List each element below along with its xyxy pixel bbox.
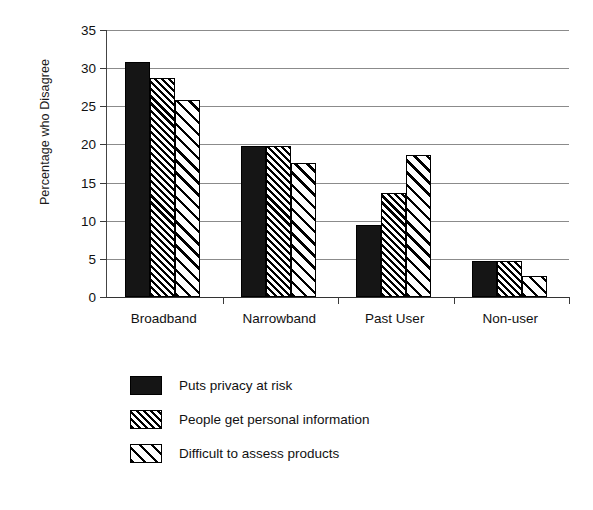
- legend-label: Puts privacy at risk: [179, 378, 292, 393]
- x-axis-tick: [454, 297, 455, 304]
- chart-legend: Puts privacy at riskPeople get personal …: [130, 371, 530, 473]
- legend-swatch: [130, 410, 162, 429]
- y-axis-tick: [100, 144, 107, 145]
- y-axis-tick: [100, 183, 107, 184]
- legend-swatch: [130, 444, 162, 463]
- legend-item: People get personal information: [130, 405, 530, 434]
- bar: [356, 225, 381, 297]
- bar: [497, 261, 522, 297]
- x-axis-tick: [338, 297, 339, 304]
- y-axis-title: Percentage who Disagree: [38, 17, 52, 247]
- bar-group: [241, 30, 316, 297]
- bar: [522, 276, 547, 297]
- x-axis-label-broadband: Broadband: [106, 311, 222, 326]
- plot-area: 35302520151050: [106, 30, 569, 298]
- bar-group: [472, 30, 547, 297]
- y-axis-tick: [100, 221, 107, 222]
- x-axis-label-non-user: Non-user: [453, 311, 569, 326]
- y-axis-tick-label: 35: [81, 23, 96, 38]
- legend-swatch: [130, 376, 162, 395]
- y-axis-tick: [100, 68, 107, 69]
- bar-group: [356, 30, 431, 297]
- bar-chart: Percentage who Disagree 35302520151050 B…: [0, 0, 593, 510]
- bar: [241, 146, 266, 297]
- y-axis-tick: [100, 259, 107, 260]
- bar: [266, 146, 291, 297]
- bar: [406, 155, 431, 297]
- y-axis-tick-label: 15: [81, 175, 96, 190]
- y-axis-tick-label: 0: [88, 290, 96, 305]
- y-axis-tick: [100, 30, 107, 31]
- y-axis-tick: [100, 297, 107, 298]
- bar: [150, 78, 175, 297]
- y-axis-tick-label: 30: [81, 61, 96, 76]
- bar: [381, 193, 406, 298]
- x-axis-label-narrowband: Narrowband: [222, 311, 338, 326]
- legend-label: Difficult to assess products: [179, 446, 339, 461]
- y-axis-tick-label: 5: [88, 251, 96, 266]
- bar: [291, 163, 316, 297]
- bar: [472, 261, 497, 297]
- x-axis-tick: [223, 297, 224, 304]
- bar: [125, 62, 150, 297]
- legend-label: People get personal information: [179, 412, 370, 427]
- x-axis-label-past-user: Past User: [337, 311, 453, 326]
- x-axis-tick: [569, 297, 570, 304]
- y-axis-tick-label: 25: [81, 99, 96, 114]
- legend-item: Difficult to assess products: [130, 439, 530, 468]
- y-axis-tick-label: 20: [81, 137, 96, 152]
- bar: [175, 100, 200, 297]
- legend-item: Puts privacy at risk: [130, 371, 530, 400]
- bar-group: [125, 30, 200, 297]
- y-axis-tick-label: 10: [81, 213, 96, 228]
- y-axis-tick: [100, 106, 107, 107]
